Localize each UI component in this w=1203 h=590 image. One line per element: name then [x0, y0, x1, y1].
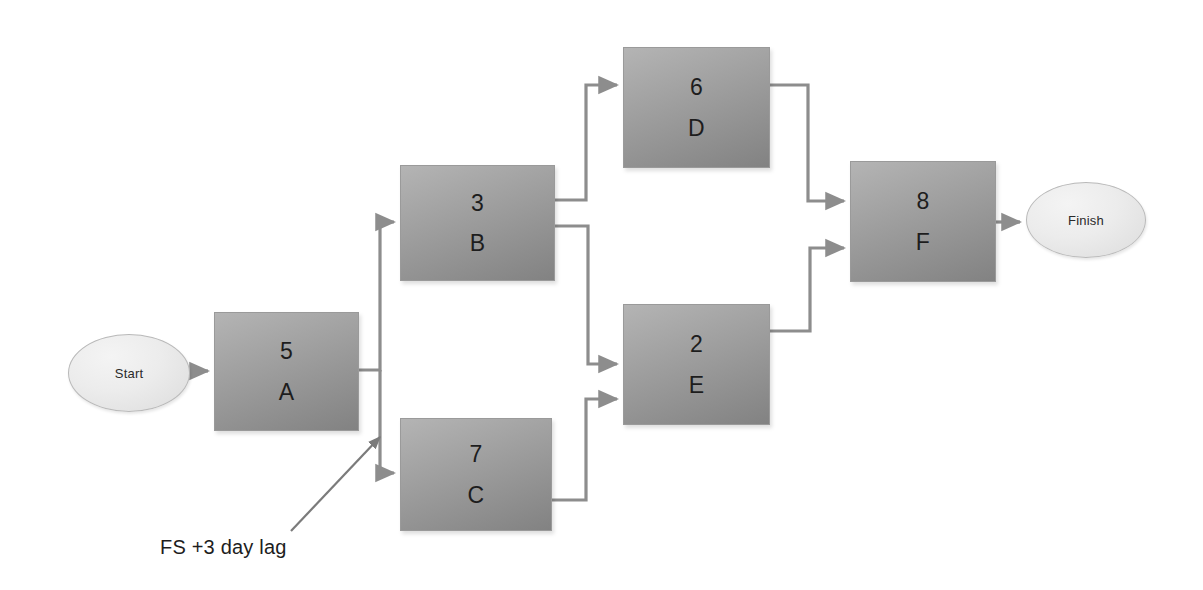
finish-node[interactable]: Finish [1026, 182, 1146, 258]
task-duration-e: 2 [690, 332, 703, 356]
connector-layer [0, 0, 1203, 590]
edge-d-to-f [770, 85, 844, 201]
annotation-leader-line [291, 437, 380, 531]
task-duration-a: 5 [280, 339, 293, 363]
task-node-c[interactable]: 7 C [400, 418, 552, 531]
start-node-label: Start [115, 366, 143, 381]
task-id-c: C [468, 483, 485, 507]
task-id-a: A [279, 380, 295, 404]
task-id-b: B [470, 231, 486, 255]
task-id-e: E [689, 373, 705, 397]
edge-e-to-f [770, 248, 844, 331]
task-id-d: D [688, 116, 705, 140]
edge-a-to-c [380, 370, 394, 473]
task-duration-f: 8 [916, 189, 929, 213]
start-node[interactable]: Start [68, 334, 190, 412]
finish-node-label: Finish [1068, 213, 1104, 228]
task-id-f: F [916, 230, 930, 254]
task-node-f[interactable]: 8 F [850, 161, 996, 282]
task-duration-d: 6 [690, 75, 703, 99]
edge-c-to-e [552, 399, 617, 500]
edge-b-to-e [555, 226, 617, 364]
task-node-a[interactable]: 5 A [214, 312, 359, 431]
edge-b-to-d [555, 85, 617, 200]
task-node-b[interactable]: 3 B [400, 165, 555, 281]
task-node-e[interactable]: 2 E [623, 304, 770, 425]
task-node-d[interactable]: 6 D [623, 47, 770, 168]
task-duration-c: 7 [469, 442, 482, 466]
task-duration-b: 3 [471, 191, 484, 215]
lag-annotation-label: FS +3 day lag [160, 536, 287, 559]
edge-a-to-b [359, 222, 394, 370]
network-diagram-canvas: Start 5 A 3 B 7 C 6 D 2 E 8 F Finish FS … [0, 0, 1203, 590]
